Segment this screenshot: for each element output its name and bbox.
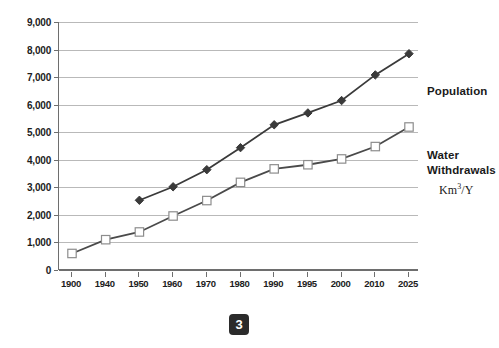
data-point-marker xyxy=(169,183,177,191)
x-tick-mark xyxy=(374,272,375,277)
y-tick-mark xyxy=(54,270,58,271)
y-axis: 01,0002,0003,0004,0005,0006,0007,0008,00… xyxy=(0,0,58,348)
x-tick-mark xyxy=(307,272,308,277)
x-tick-mark xyxy=(105,272,106,277)
y-tick-label: 5,000 xyxy=(27,127,51,138)
page-number-badge: 3 xyxy=(229,314,249,335)
x-tick-label: 1950 xyxy=(128,278,148,289)
data-point-marker xyxy=(135,228,143,236)
data-point-marker xyxy=(102,235,110,243)
water-series-label: Water Withdrawals xyxy=(427,148,496,178)
y-tick-label: 8,000 xyxy=(27,44,51,55)
data-point-marker xyxy=(405,123,413,131)
gridline xyxy=(59,270,418,271)
x-tick-label: 1980 xyxy=(230,278,250,289)
unit-prefix: Km xyxy=(439,183,457,197)
x-tick-mark xyxy=(206,272,207,277)
data-point-marker xyxy=(68,249,76,257)
y-tick-label: 2,000 xyxy=(27,209,51,220)
data-point-marker xyxy=(304,109,312,117)
data-point-marker xyxy=(371,142,379,150)
x-tick-mark xyxy=(273,272,274,277)
y-tick-label: 9,000 xyxy=(27,17,51,28)
y-tick-label: 4,000 xyxy=(27,154,51,165)
data-point-marker xyxy=(169,212,177,220)
x-tick-mark xyxy=(240,272,241,277)
data-point-marker xyxy=(270,165,278,173)
x-axis: 1900194019501960197019801990199520002010… xyxy=(58,272,418,294)
data-point-marker xyxy=(236,178,244,186)
plot-area xyxy=(58,22,418,270)
data-point-marker xyxy=(304,161,312,169)
y-tick-label: 6,000 xyxy=(27,99,51,110)
water-label-line-2: Withdrawals xyxy=(427,163,496,178)
data-point-marker xyxy=(135,196,143,204)
x-tick-label: 1995 xyxy=(297,278,317,289)
data-point-marker xyxy=(203,196,211,204)
unit-label: Km3/Y xyxy=(439,179,474,198)
x-tick-label: 2000 xyxy=(331,278,351,289)
x-tick-label: 1970 xyxy=(196,278,216,289)
water-label-line-1: Water xyxy=(427,148,496,163)
x-tick-mark xyxy=(341,272,342,277)
x-tick-mark xyxy=(408,272,409,277)
x-tick-mark xyxy=(138,272,139,277)
x-tick-mark xyxy=(71,272,72,277)
data-point-marker xyxy=(337,155,345,163)
population-series-label: Population xyxy=(427,84,487,99)
series-layer xyxy=(59,22,419,270)
chart-figure: 01,0002,0003,0004,0005,0006,0007,0008,00… xyxy=(0,0,499,348)
x-tick-mark xyxy=(172,272,173,277)
y-tick-label: 1,000 xyxy=(27,237,51,248)
x-tick-label: 2010 xyxy=(364,278,384,289)
x-tick-label: 1940 xyxy=(95,278,115,289)
y-tick-label: 0 xyxy=(46,265,51,276)
y-tick-label: 7,000 xyxy=(27,72,51,83)
data-point-marker xyxy=(405,49,413,57)
x-tick-label: 1900 xyxy=(61,278,81,289)
x-tick-label: 2025 xyxy=(398,278,418,289)
x-tick-label: 1990 xyxy=(263,278,283,289)
y-tick-label: 3,000 xyxy=(27,182,51,193)
unit-suffix: /Y xyxy=(461,183,473,197)
x-tick-label: 1960 xyxy=(162,278,182,289)
